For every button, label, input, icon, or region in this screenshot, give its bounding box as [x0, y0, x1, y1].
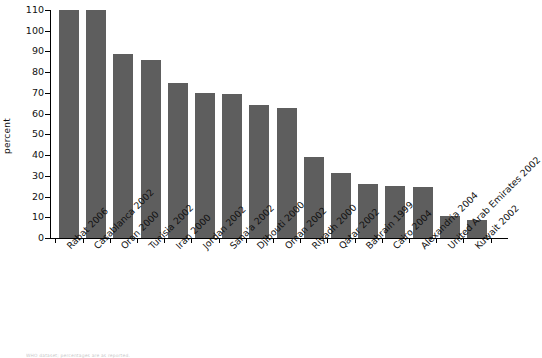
y-tick-label: 110 [20, 5, 44, 15]
y-tick-label: 20 [20, 192, 44, 202]
plot-area [50, 8, 508, 240]
y-tick-label: 10 [20, 212, 44, 222]
y-axis-tick [45, 238, 50, 239]
y-tick-label: 30 [20, 171, 44, 181]
bars-layer [50, 8, 508, 238]
y-axis-tick-labels: 1101009080706050403020100 [18, 8, 44, 240]
y-tick-label: 50 [20, 129, 44, 139]
y-tick-label: 90 [20, 46, 44, 56]
footer-note: WHO dataset; percentages are as reported… [26, 353, 130, 358]
y-tick-label: 40 [20, 150, 44, 160]
y-tick-label: 70 [20, 88, 44, 98]
y-tick-label: 0 [20, 233, 44, 243]
x-axis-category-labels: Rabat 2006Casablanca 2002Oran 2000Tunisi… [50, 240, 512, 350]
y-tick-label: 100 [20, 26, 44, 36]
bar[interactable] [59, 10, 79, 238]
bar[interactable] [86, 10, 106, 238]
y-tick-label: 80 [20, 67, 44, 77]
y-tick-label: 60 [20, 109, 44, 119]
